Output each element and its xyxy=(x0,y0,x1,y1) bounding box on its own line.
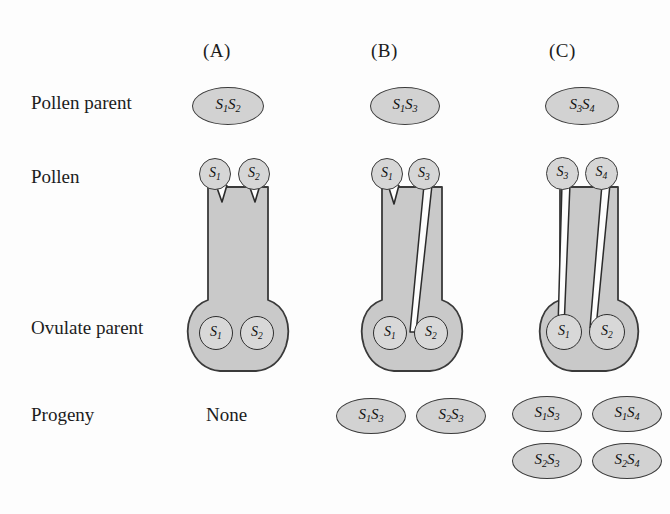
progeny-a-none: None xyxy=(206,404,247,426)
pollen-grain-a-s1: S1 xyxy=(199,158,231,190)
row-label-ovulate-parent: Ovulate parent xyxy=(31,317,143,339)
row-label-progeny: Progeny xyxy=(31,404,94,426)
pollen-grain-c-s4: S4 xyxy=(585,157,618,190)
progeny-c-1: S1S4 xyxy=(592,396,662,432)
pistil-a xyxy=(178,160,298,375)
genotype-label: S1S4 xyxy=(614,405,639,422)
progeny-c-0: S1S3 xyxy=(512,396,582,432)
genotype-label: S2S4 xyxy=(614,452,639,469)
pollen-parent-b: S1S3 xyxy=(370,87,440,125)
pistil-c xyxy=(528,160,648,375)
pollen-grain-a-s2: S2 xyxy=(238,158,270,190)
ovule-a-s1: S1 xyxy=(199,316,233,350)
genotype-label: S3S4 xyxy=(569,97,594,114)
progeny-b-1: S2S3 xyxy=(416,398,486,434)
row-label-pollen-parent: Pollen parent xyxy=(31,92,132,114)
pistil-b xyxy=(352,160,472,375)
genotype-label: S4 xyxy=(596,165,608,181)
panel-label-c: (C) xyxy=(549,40,576,62)
incompatibility-figure: (A) (B) (C) Pollen parent Pollen Ovulate… xyxy=(0,0,670,514)
genotype-label: S1S2 xyxy=(215,97,240,114)
genotype-label: S1 xyxy=(384,325,396,341)
genotype-label: S3 xyxy=(418,166,430,182)
progeny-c-3: S2S4 xyxy=(592,443,662,479)
progeny-b-0: S1S3 xyxy=(336,398,406,434)
progeny-c-2: S2S3 xyxy=(512,443,582,479)
ovule-b-s2: S2 xyxy=(414,316,448,350)
genotype-label: S2 xyxy=(248,166,260,182)
genotype-label: S1 xyxy=(210,325,222,341)
ovule-c-s1: S1 xyxy=(546,314,582,350)
genotype-label: S1S3 xyxy=(392,97,417,114)
genotype-label: S2 xyxy=(425,325,437,341)
genotype-label: S2 xyxy=(251,325,263,341)
pollen-grain-b-s3: S3 xyxy=(408,158,440,190)
genotype-label: S1 xyxy=(209,166,221,182)
genotype-label: S2S3 xyxy=(534,452,559,469)
pollen-grain-b-s1: S1 xyxy=(371,158,403,190)
genotype-label: S2 xyxy=(601,324,613,340)
genotype-label: S3 xyxy=(557,165,569,181)
ovule-b-s1: S1 xyxy=(373,316,407,350)
genotype-label: S1 xyxy=(381,166,393,182)
pollen-parent-c: S3S4 xyxy=(545,87,619,125)
panel-label-a: (A) xyxy=(203,40,231,62)
ovule-c-s2: S2 xyxy=(589,314,625,350)
pollen-parent-a: S1S2 xyxy=(192,87,264,125)
genotype-label: S2S3 xyxy=(438,407,463,424)
ovule-a-s2: S2 xyxy=(240,316,274,350)
genotype-label: S1S3 xyxy=(358,407,383,424)
genotype-label: S1 xyxy=(558,324,570,340)
pollen-grain-c-s3: S3 xyxy=(546,157,579,190)
panel-label-b: (B) xyxy=(371,40,398,62)
row-label-pollen: Pollen xyxy=(31,166,80,188)
genotype-label: S1S3 xyxy=(534,405,559,422)
